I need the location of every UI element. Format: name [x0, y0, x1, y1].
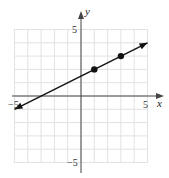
- y-axis-arrow-icon: [78, 11, 84, 19]
- coordinate-plane: −5 5 5 −5 x y: [0, 0, 169, 178]
- x-tick-label-min: −5: [8, 99, 19, 110]
- line-arrow-right-icon: [139, 43, 148, 49]
- x-tick-label-max: 5: [143, 99, 148, 110]
- y-tick-label-min: −5: [67, 157, 78, 168]
- data-point: [91, 66, 97, 72]
- data-point: [118, 53, 124, 59]
- y-axis-label: y: [84, 5, 90, 17]
- x-axis-label: x: [156, 97, 162, 109]
- y-tick-label-max: 5: [72, 24, 77, 35]
